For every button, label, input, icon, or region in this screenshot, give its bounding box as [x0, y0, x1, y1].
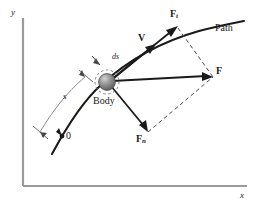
force-normal-label: Fn [136, 134, 146, 145]
force-tangential-label: Ft [170, 9, 178, 20]
ds-marker-group [92, 56, 100, 65]
force-resultant-label: F [216, 66, 222, 76]
vector-force-normal [111, 86, 148, 132]
arc-dimension-line [40, 77, 85, 132]
dashed-line-fn-to-f [148, 77, 213, 132]
force-tangential-subscript: t [176, 12, 178, 20]
velocity-label: V [138, 33, 145, 43]
vector-force-resultant [112, 72, 213, 81]
f-shaft [112, 76, 206, 81]
body-sphere [99, 74, 116, 91]
arc-length-label: s [63, 92, 67, 101]
ft-arrowhead [166, 26, 178, 37]
motion-path-curve [52, 21, 244, 154]
differential-arc-label: ds [112, 53, 119, 61]
dashed-line-ft-to-f [178, 28, 213, 77]
force-normal-subscript: n [142, 137, 146, 145]
y-axis-label: y [11, 8, 15, 17]
x-axis-label: x [240, 191, 244, 200]
body-label: Body [93, 96, 115, 106]
f-arrowhead [202, 72, 213, 81]
path-curve-group [52, 21, 244, 154]
origin-label: 0 [66, 131, 71, 141]
path-label: Path [215, 23, 233, 33]
vector-velocity [109, 44, 156, 82]
physics-diagram: y x Path Body 0 s ds V F Ft Fn [0, 0, 265, 209]
origin-direction-arrow [56, 128, 62, 136]
axes-group [23, 18, 247, 186]
fn-shaft [111, 86, 144, 126]
